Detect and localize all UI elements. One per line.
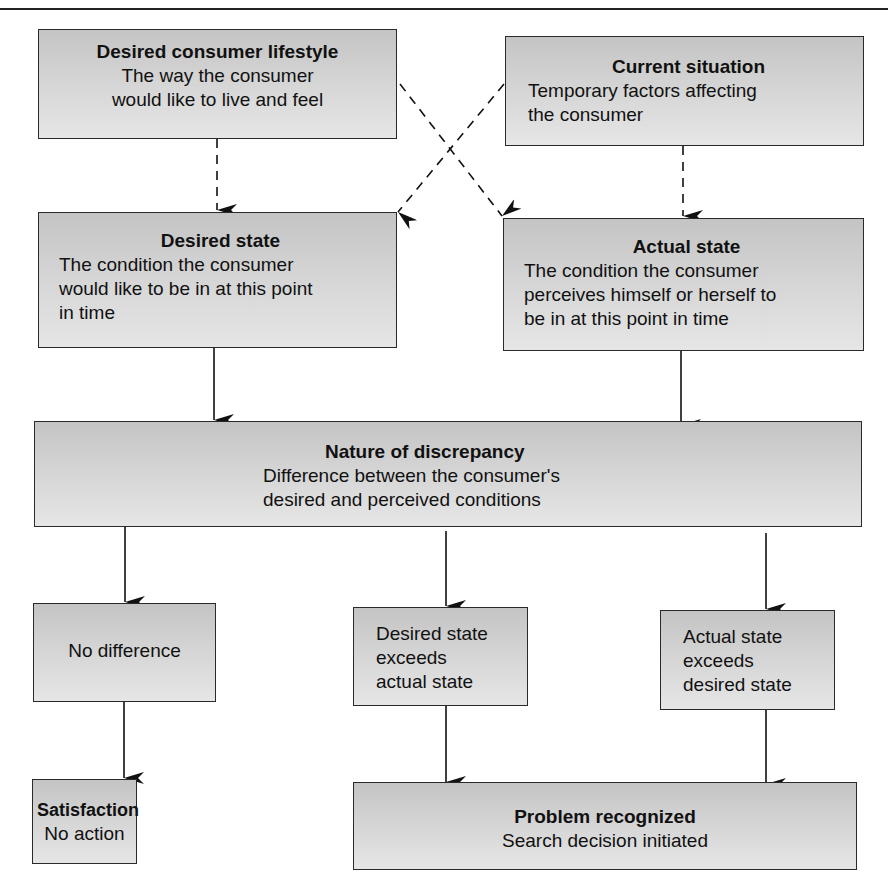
node-desc-line: desired and perceived conditions (263, 488, 847, 512)
node-desc-line: The condition the consumer (59, 253, 382, 277)
node-title: Desired state (59, 229, 382, 253)
node-desc-line: Difference between the consumer's (263, 464, 847, 488)
node-desc-line: desired state (683, 673, 820, 697)
node-desired-consumer-lifestyle: Desired consumer lifestyle The way the c… (38, 29, 397, 139)
node-desc-line: Actual state (683, 625, 820, 649)
node-desc-line: No action (37, 822, 132, 846)
node-desired-state: Desired state The condition the consumer… (38, 212, 397, 348)
node-desc-line: perceives himself or herself to (524, 283, 849, 307)
node-actual-exceeds-desired: Actual state exceeds desired state (660, 610, 835, 710)
node-problem-recognized: Problem recognized Search decision initi… (353, 782, 857, 870)
edge-lifestyle-actual-state (400, 84, 502, 216)
node-no-difference: No difference (33, 603, 216, 702)
node-nature-of-discrepancy: Nature of discrepancy Difference between… (34, 421, 862, 527)
node-title: Current situation (528, 55, 849, 79)
node-title: Problem recognized (368, 805, 842, 829)
node-title: Nature of discrepancy (263, 440, 847, 464)
node-title: Desired consumer lifestyle (53, 40, 382, 64)
node-title: Actual state (524, 235, 849, 259)
node-desc-line: No difference (48, 639, 201, 663)
node-desc-line: would like to be in at this point (59, 277, 382, 301)
node-title: Satisfaction (37, 798, 132, 822)
node-desc-line: be in at this point in time (524, 307, 849, 331)
node-desc-line: Desired state (376, 622, 513, 646)
node-desc-line: exceeds (683, 649, 820, 673)
node-desc-line: The way the consumer (53, 64, 382, 88)
node-desc-line: actual state (376, 670, 513, 694)
node-current-situation: Current situation Temporary factors affe… (505, 36, 864, 146)
node-desc-line: Search decision initiated (368, 829, 842, 853)
node-desc-line: exceeds (376, 646, 513, 670)
node-actual-state: Actual state The condition the consumer … (503, 218, 864, 351)
node-desc-line: in time (59, 301, 382, 325)
node-desc-line: The condition the consumer (524, 259, 849, 283)
node-desc-line: the consumer (528, 103, 849, 127)
node-desired-exceeds-actual: Desired state exceeds actual state (353, 607, 528, 706)
node-desc-line: would like to live and feel (53, 88, 382, 112)
node-satisfaction: Satisfaction No action (32, 779, 137, 864)
node-desc-line: Temporary factors affecting (528, 79, 849, 103)
